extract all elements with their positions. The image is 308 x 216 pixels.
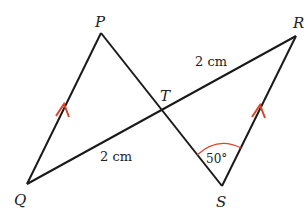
segment-pq bbox=[27, 33, 101, 184]
point-label-r: R bbox=[292, 14, 304, 32]
point-label-t: T bbox=[160, 87, 171, 105]
length-label-tr: 2 cm bbox=[195, 54, 227, 69]
point-label-s: S bbox=[216, 193, 226, 211]
point-label-q: Q bbox=[14, 191, 26, 209]
segment-sr bbox=[222, 36, 296, 186]
angle-label-s: 50° bbox=[206, 152, 227, 166]
point-label-p: P bbox=[94, 13, 106, 31]
geometry-diagram: P Q R S T 2 cm 2 cm 50° bbox=[0, 0, 308, 216]
length-label-qt: 2 cm bbox=[100, 149, 132, 164]
